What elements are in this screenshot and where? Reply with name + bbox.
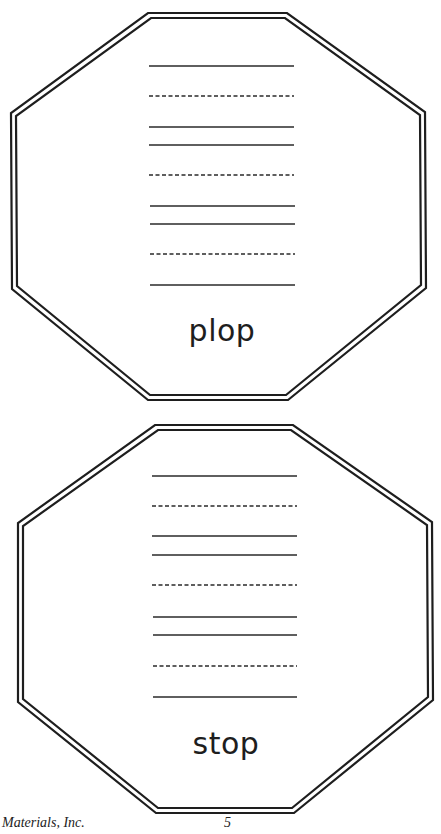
octagon-card-plop: plop — [0, 0, 441, 410]
page-number: 5 — [224, 815, 231, 831]
octagon-border — [0, 0, 441, 410]
writing-lines — [152, 476, 297, 697]
card-word: stop — [126, 726, 326, 761]
publisher-credit: Materials, Inc. — [2, 815, 85, 831]
card-word: plop — [122, 313, 322, 348]
writing-lines — [149, 66, 295, 285]
octagon-card-stop: stop — [0, 410, 441, 820]
